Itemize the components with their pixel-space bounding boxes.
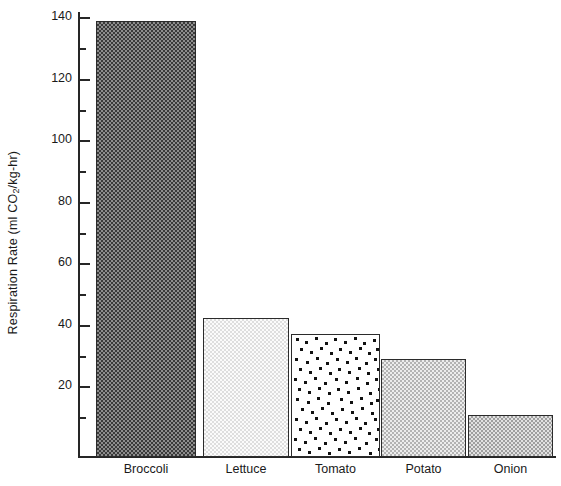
- y-tick-label-140: 140: [51, 9, 72, 24]
- y-axis-label-subscript: 2: [12, 189, 22, 194]
- plot-area: 20 40 60 80 100 120 140: [78, 0, 561, 486]
- bar-tomato[interactable]: [291, 334, 380, 457]
- bar-onion[interactable]: [468, 415, 553, 457]
- y-tick-minor-10: [79, 417, 86, 419]
- y-tick-label-60: 60: [58, 255, 72, 270]
- y-axis-label: Respiration Rate (ml CO2/kg-hr): [0, 0, 28, 486]
- y-axis-label-post: /kg-hr): [6, 151, 20, 189]
- bar-potato[interactable]: [381, 359, 466, 457]
- y-tick-label-20: 20: [58, 378, 72, 393]
- y-tick-minor-70: [79, 233, 86, 235]
- y-tick-100: 100: [79, 140, 90, 142]
- y-tick-80: 80: [79, 202, 90, 204]
- y-tick-20: 20: [79, 386, 90, 388]
- x-tick-label-tomato: Tomato: [291, 462, 380, 476]
- y-tick-label-80: 80: [58, 194, 72, 209]
- bar-tomato-pattern: [292, 335, 379, 456]
- respiration-rate-bar-chart: Respiration Rate (ml CO2/kg-hr) 20 40 60…: [0, 0, 561, 486]
- y-tick-label-40: 40: [58, 317, 72, 332]
- y-tick-label-120: 120: [51, 71, 72, 86]
- y-tick-minor-90: [79, 171, 86, 173]
- y-tick-40: 40: [79, 325, 90, 327]
- x-tick-label-potato: Potato: [381, 462, 466, 476]
- y-tick-label-100: 100: [51, 132, 72, 147]
- y-axis-label-pre: Respiration Rate (ml CO: [6, 194, 20, 335]
- bar-broccoli[interactable]: [96, 21, 196, 457]
- y-tick-120: 120: [79, 79, 90, 81]
- y-tick-minor-30: [79, 356, 86, 358]
- y-tick-60: 60: [79, 263, 90, 265]
- y-axis-label-text: Respiration Rate (ml CO2/kg-hr): [6, 151, 21, 335]
- y-tick-140: 140: [79, 17, 90, 19]
- x-tick-label-lettuce: Lettuce: [203, 462, 289, 476]
- x-tick-label-onion: Onion: [468, 462, 553, 476]
- bar-lettuce[interactable]: [203, 318, 289, 457]
- y-tick-minor-50: [79, 294, 86, 296]
- x-tick-label-broccoli: Broccoli: [96, 462, 196, 476]
- y-tick-minor-130: [79, 48, 86, 50]
- y-tick-minor-110: [79, 110, 86, 112]
